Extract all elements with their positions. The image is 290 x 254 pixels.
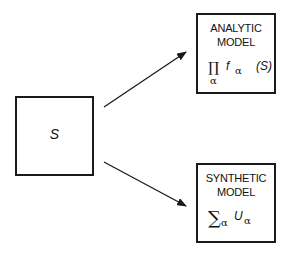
function-subscript: α: [235, 65, 242, 76]
analytic-model-box: ANALYTIC MODEL ∏ α f α (S): [196, 13, 276, 94]
analytic-title-line2: MODEL: [198, 35, 274, 49]
arrow-to-analytic: [104, 52, 186, 107]
synthetic-model-box: SYNTHETIC MODEL ∑ α U α: [196, 163, 276, 243]
product-subscript: α: [210, 75, 217, 86]
synthetic-title-line1: SYNTHETIC: [198, 171, 274, 185]
synthetic-title-line2: MODEL: [198, 185, 274, 199]
sum-subscript: α: [221, 217, 228, 228]
source-label: S: [17, 126, 92, 142]
product-operator: ∏: [208, 59, 219, 75]
synthetic-model-title: SYNTHETIC MODEL: [198, 171, 274, 199]
u-subscript: α: [244, 215, 251, 226]
sum-operator: ∑: [208, 207, 221, 228]
analytic-title-line1: ANALYTIC: [198, 21, 274, 35]
function-symbol: f: [226, 59, 229, 73]
analytic-model-title: ANALYTIC MODEL: [198, 21, 274, 49]
u-symbol: U: [234, 209, 243, 223]
source-node-box: S: [15, 96, 94, 176]
function-argument: (S): [256, 59, 272, 73]
arrow-to-synthetic: [104, 162, 186, 206]
